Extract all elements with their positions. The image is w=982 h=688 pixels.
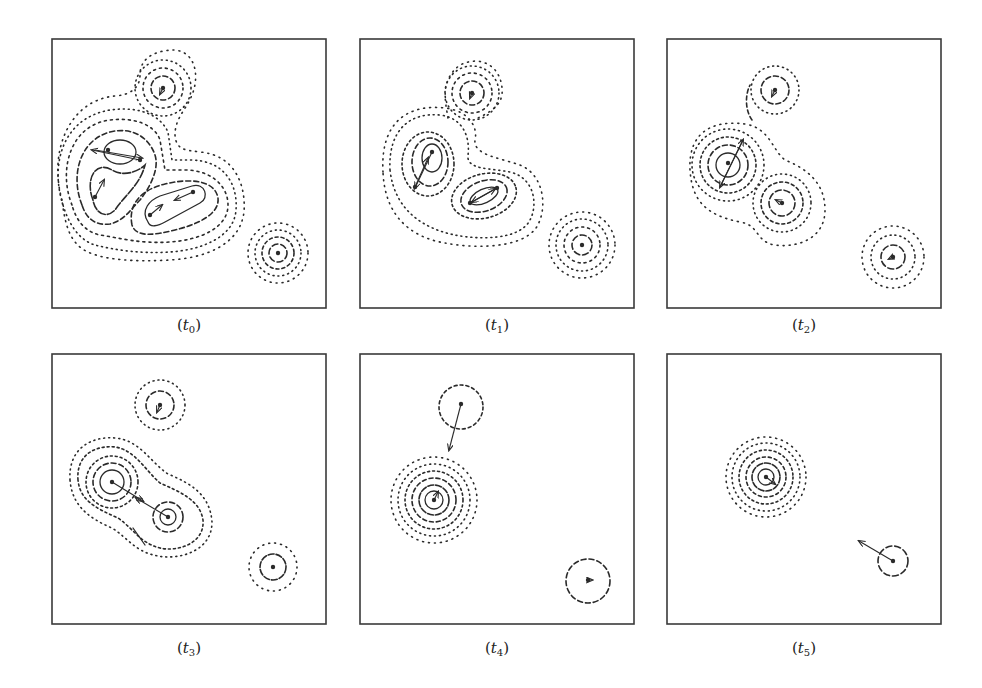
cluster-center-point	[276, 251, 280, 255]
panel-caption-t1: (t1)	[437, 316, 557, 339]
panel-t4	[360, 354, 634, 624]
cluster-center-point	[191, 190, 195, 194]
cluster-center-point	[459, 402, 463, 406]
cluster-center-point	[495, 186, 499, 190]
cluster-center-point	[430, 150, 434, 154]
cluster-center-point	[106, 148, 110, 152]
cluster-center-point	[166, 515, 170, 519]
panel-caption-t0: (t0)	[129, 316, 249, 339]
cluster-center-point	[586, 578, 590, 582]
cluster-center-point	[764, 475, 768, 479]
caption-close-paren: )	[810, 316, 816, 334]
cluster-center-point	[93, 195, 97, 199]
cluster-center-point	[432, 498, 436, 502]
cluster-center-point	[773, 88, 777, 92]
cluster-center-point	[580, 243, 584, 247]
cluster-center-point	[780, 201, 784, 205]
caption-close-paren: )	[195, 639, 201, 657]
cluster-center-point	[271, 565, 275, 569]
panel-t3	[52, 354, 326, 624]
panel-frame	[360, 39, 634, 308]
panel-t1	[360, 39, 634, 308]
cluster-center-point	[138, 158, 142, 162]
cluster-center-point	[161, 86, 165, 90]
caption-close-paren: )	[195, 316, 201, 334]
panel-caption-t4: (t4)	[437, 639, 557, 662]
caption-close-paren: )	[503, 639, 509, 657]
caption-close-paren: )	[503, 316, 509, 334]
cluster-center-point	[110, 480, 114, 484]
panel-t5	[667, 354, 941, 624]
panel-caption-t5: (t5)	[744, 639, 864, 662]
figure-canvas	[0, 0, 982, 688]
panel-t2	[667, 39, 941, 308]
cluster-center-point	[468, 201, 472, 205]
cluster-center-point	[470, 91, 474, 95]
cluster-center-point	[413, 185, 417, 189]
figure: (t0)(t1)(t2)(t3)(t4)(t5)	[0, 0, 982, 688]
cluster-center-point	[726, 161, 730, 165]
panel-frame	[360, 354, 634, 624]
panel-t0	[52, 39, 326, 308]
panel-caption-t3: (t3)	[129, 639, 249, 662]
caption-close-paren: )	[810, 639, 816, 657]
panel-caption-t2: (t2)	[744, 316, 864, 339]
panel-frame	[52, 354, 326, 624]
cluster-center-point	[891, 255, 895, 259]
cluster-center-point	[158, 403, 162, 407]
cluster-center-point	[148, 213, 152, 217]
cluster-center-point	[891, 559, 895, 563]
